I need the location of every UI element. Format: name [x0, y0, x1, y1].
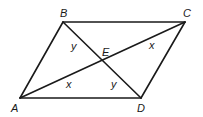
angle-label-x-right: x: [148, 39, 155, 51]
vertex-label-a: A: [10, 102, 18, 114]
side-cd: [141, 22, 185, 98]
vertex-label-d: D: [137, 102, 145, 114]
vertex-label-c: C: [183, 7, 191, 19]
intersection-label-e: E: [102, 46, 110, 58]
angle-label-x-left: x: [65, 78, 72, 90]
angle-label-y-top: y: [70, 40, 78, 52]
angle-label-y-bottom: y: [110, 78, 118, 90]
side-ab: [20, 22, 63, 98]
diagonal-bd: [63, 22, 141, 98]
parallelogram-diagram: A B C D E y x x y: [0, 0, 203, 117]
vertex-label-b: B: [60, 7, 67, 19]
